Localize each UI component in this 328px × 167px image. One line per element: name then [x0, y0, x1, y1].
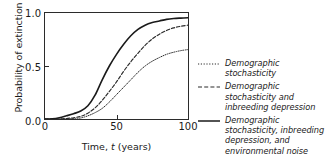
- curve-series-2: [45, 18, 188, 119]
- curve-series-1: [45, 25, 188, 119]
- legend-line-dashed-icon: [198, 81, 220, 92]
- y-tick-label-05: 0.5: [25, 63, 41, 73]
- x-tick-label-100: 100: [178, 122, 197, 132]
- x-tick-label-50: 50: [110, 122, 123, 132]
- curve-series-0: [45, 50, 188, 119]
- legend-item-demographic-stochasticity: Demographic stochasticity: [198, 58, 328, 78]
- y-tick-label-1: 1.0: [25, 9, 41, 19]
- x-axis-title: Time, t (years): [44, 141, 189, 152]
- curves-svg: [45, 13, 188, 119]
- legend-item-demographic-stochasticity-inbreeding-noise: Demographic stochasticity, inbreeding de…: [198, 115, 328, 156]
- x-tick-label-0: 0: [42, 122, 48, 132]
- legend-item-demographic-stochasticity-inbreeding: Demographic stochasticity and inbreeding…: [198, 81, 328, 112]
- y-axis-title: Probability of extinction: [13, 3, 24, 113]
- legend-label-1: Demographic stochasticity and inbreeding…: [225, 81, 328, 112]
- legend-line-solid-icon: [198, 115, 220, 126]
- plot-block: Probability of extinction 1.0 0.5 0.0 0 …: [0, 0, 200, 167]
- legend: Demographic stochasticity Demographic st…: [198, 58, 328, 159]
- extinction-probability-figure: Probability of extinction 1.0 0.5 0.0 0 …: [0, 0, 328, 167]
- legend-label-0: Demographic stochasticity: [225, 58, 328, 78]
- x-tick-mark-50: [117, 115, 118, 119]
- y-tick-mark-05: [45, 66, 49, 67]
- y-tick-label-0: 0.0: [25, 117, 41, 127]
- plot-area: 1.0 0.5 0.0 0 50 100: [44, 12, 189, 120]
- legend-line-dotted-icon: [198, 58, 220, 69]
- legend-label-2: Demographic stochasticity, inbreeding de…: [225, 115, 328, 156]
